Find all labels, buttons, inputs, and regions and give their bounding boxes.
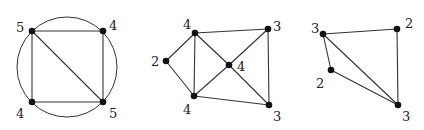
edge	[166, 33, 195, 61]
edge	[229, 29, 268, 65]
vertex-degree-label: 3	[311, 21, 319, 36]
vertex-degree-label: 4	[16, 106, 24, 121]
vertex-degree-label: 5	[109, 106, 117, 121]
vertex-degree-label: 2	[316, 76, 324, 91]
vertex	[265, 26, 272, 33]
graph-2: 432443	[151, 17, 281, 124]
vertex-degree-label: 3	[273, 19, 281, 34]
edge	[195, 29, 268, 33]
vertex	[100, 99, 107, 106]
vertex	[192, 30, 199, 37]
graph-1: 5445	[16, 17, 117, 121]
vertex-degree-label: 2	[151, 54, 159, 69]
vertex-degree-label: 4	[237, 59, 245, 74]
vertex-degree-label: 4	[109, 18, 117, 33]
vertex-degree-label: 4	[183, 17, 191, 32]
vertex	[226, 62, 233, 69]
edge	[194, 65, 229, 96]
vertex	[191, 93, 198, 100]
edge	[166, 61, 194, 96]
vertex	[320, 31, 327, 38]
edge	[331, 70, 398, 105]
edge	[195, 33, 229, 65]
graph-diagrams: 5445 432443 3223	[0, 0, 424, 130]
edge	[32, 31, 103, 102]
vertex	[100, 28, 107, 35]
edge	[194, 33, 195, 96]
vertex	[29, 99, 36, 106]
vertex	[163, 58, 170, 65]
vertex-degree-label: 3	[402, 109, 410, 124]
vertex-degree-label: 2	[405, 16, 413, 31]
vertex	[394, 26, 401, 33]
edge	[397, 29, 398, 105]
vertex	[266, 102, 273, 109]
vertex	[328, 67, 335, 74]
edge	[194, 96, 269, 105]
vertex-degree-label: 5	[16, 20, 24, 35]
edge	[323, 29, 397, 34]
vertex-degree-label: 4	[183, 102, 191, 117]
graph-3: 3223	[311, 16, 413, 124]
vertex-degree-label: 3	[273, 109, 281, 124]
edge	[268, 29, 269, 105]
edge	[229, 65, 269, 105]
edge	[323, 34, 331, 70]
vertex	[395, 102, 402, 109]
vertex	[29, 28, 36, 35]
